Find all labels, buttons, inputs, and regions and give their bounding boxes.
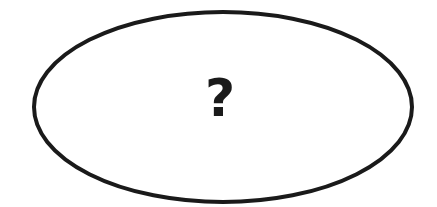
question-mark-label: ? xyxy=(195,68,245,128)
